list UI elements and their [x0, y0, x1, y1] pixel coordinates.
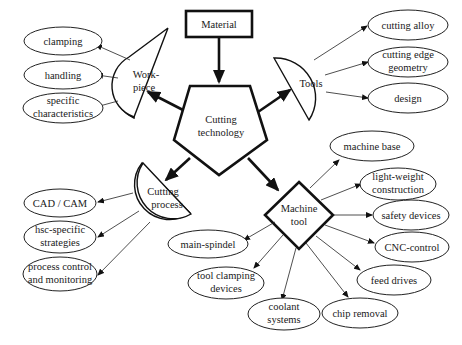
center-line1: Cutting: [205, 114, 237, 125]
svg-text:hsc-specific: hsc-specific: [35, 224, 85, 235]
workpiece-item-handling: handling: [24, 61, 102, 89]
svg-text:geometry: geometry: [388, 62, 428, 73]
svg-text:machine base: machine base: [344, 141, 401, 152]
svg-text:devices: devices: [210, 283, 242, 294]
machine-tool-item-tool-clamping-devices: tool clamping devices: [188, 267, 264, 299]
tools-label: Tools: [299, 78, 322, 89]
svg-text:construction: construction: [372, 184, 425, 195]
workpiece-line2: piece: [133, 82, 155, 93]
svg-text:feed drives: feed drives: [371, 275, 417, 286]
svg-text:chip removal: chip removal: [332, 308, 387, 319]
machine-tool-node: Machine tool: [265, 182, 333, 249]
machine-tool-line1: Machine: [281, 203, 318, 214]
cutting-process-item-hsc-strategies: hsc-specific strategies: [24, 221, 96, 253]
tools-node: Tools: [274, 58, 323, 120]
machine-tool-item-coolant-systems: coolant systems: [248, 298, 320, 330]
svg-text:CNC-control: CNC-control: [385, 242, 440, 253]
svg-text:design: design: [394, 93, 422, 104]
svg-text:handling: handling: [45, 70, 82, 81]
svg-text:strategies: strategies: [40, 237, 80, 248]
machine-tool-item-main-spindel: main-spindel: [168, 230, 248, 258]
svg-text:specific: specific: [47, 95, 80, 106]
svg-text:CAD / CAM: CAD / CAM: [33, 198, 88, 209]
machine-tool-line2: tool: [291, 216, 307, 227]
workpiece-item-specific-characteristics: specific characteristics: [23, 93, 103, 123]
tools-arrow: [258, 90, 290, 112]
cutting-process-arrow: [166, 158, 190, 180]
cutting-process-node: Cutting process: [135, 163, 191, 220]
svg-text:safety devices: safety devices: [381, 210, 440, 221]
svg-text:tool clamping: tool clamping: [197, 270, 256, 281]
svg-text:systems: systems: [267, 314, 300, 325]
tools-item-cutting-edge-geometry: cutting edge geometry: [368, 47, 448, 77]
svg-text:process control: process control: [28, 261, 92, 272]
svg-text:cutting alloy: cutting alloy: [382, 20, 436, 31]
cutting-process-line1: Cutting: [147, 186, 179, 197]
machine-tool-arrow: [248, 158, 278, 190]
workpiece-node: Work- piece: [112, 28, 168, 118]
machine-tool-item-cnc-control: CNC-control: [375, 232, 449, 262]
svg-text:light-weight: light-weight: [372, 171, 423, 182]
cutting-process-line2: process: [151, 199, 183, 210]
tools-item-design: design: [368, 83, 448, 113]
workpiece-arrow: [148, 92, 183, 110]
svg-text:clamping: clamping: [43, 36, 83, 47]
svg-text:coolant: coolant: [269, 301, 300, 312]
cutting-process-item-cad-cam: CAD / CAM: [24, 189, 96, 217]
machine-tool-item-chip-removal: chip removal: [322, 298, 398, 328]
machine-tool-item-feed-drives: feed drives: [357, 265, 431, 295]
cutting-technology-diagram: Material Cutting technology Work- piece …: [0, 0, 462, 345]
svg-text:characteristics: characteristics: [33, 108, 93, 119]
machine-tool-item-safety-devices: safety devices: [373, 200, 449, 230]
svg-text:main-spindel: main-spindel: [181, 239, 236, 250]
workpiece-line1: Work-: [133, 69, 160, 80]
center-line2: technology: [198, 127, 245, 138]
svg-text:and monitoring: and monitoring: [28, 274, 93, 285]
svg-text:cutting edge: cutting edge: [382, 49, 434, 60]
machine-tool-item-machine-base: machine base: [330, 131, 414, 161]
tools-item-cutting-alloy: cutting alloy: [368, 10, 448, 40]
machine-tool-item-light-weight-construction: light-weight construction: [360, 168, 436, 200]
material-box: Material: [186, 11, 252, 37]
material-label: Material: [201, 19, 237, 30]
cutting-process-item-process-control: process control and monitoring: [23, 257, 97, 291]
workpiece-item-clamping: clamping: [24, 27, 102, 55]
